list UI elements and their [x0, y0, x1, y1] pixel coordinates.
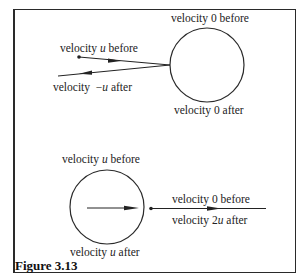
label-large-ball-after-top: velocity 0 after	[174, 104, 244, 117]
label-small-ball-after-top: velocity −u after	[53, 81, 132, 94]
text: after	[223, 214, 247, 226]
text: velocity	[60, 42, 100, 54]
text: before	[108, 153, 140, 165]
text: velocity −	[53, 81, 102, 93]
arrow-right-icon	[207, 206, 221, 210]
label-large-ball-before-bottom: velocity u before	[62, 153, 140, 166]
text: velocity 2	[172, 214, 218, 226]
label-small-ball-after-bottom: velocity 2u after	[172, 214, 247, 227]
text: after	[116, 246, 140, 258]
label-large-ball-before-top: velocity 0 before	[171, 12, 249, 25]
figure-caption: Figure 3.13	[15, 258, 78, 274]
rebound-path-top	[58, 65, 170, 76]
large-ball-top	[170, 28, 244, 102]
label-small-ball-before-top: velocity u before	[60, 42, 138, 55]
text: velocity	[62, 153, 102, 165]
label-large-ball-after-bottom: velocity u after	[70, 246, 140, 259]
arrow-right-icon	[124, 206, 139, 210]
incoming-path-top	[79, 57, 170, 65]
large-ball-bottom	[70, 170, 144, 244]
collision-diagram	[0, 0, 308, 280]
text: before	[106, 42, 138, 54]
text: velocity	[70, 246, 110, 258]
label-small-ball-before-bottom: velocity 0 before	[172, 193, 250, 206]
text: after	[108, 81, 132, 93]
